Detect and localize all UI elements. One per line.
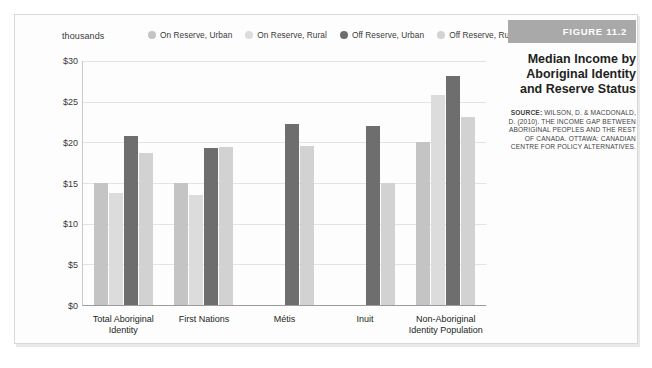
bar[interactable]: [381, 183, 395, 305]
x-axis-category-label: First Nations: [179, 314, 230, 325]
bar[interactable]: [94, 183, 108, 305]
legend-item[interactable]: On Reserve, Urban: [148, 30, 232, 40]
bar-group: Total AboriginalIdentity: [83, 61, 164, 305]
y-axis-tick-label: $5: [68, 260, 78, 270]
figure-number-band: FIGURE 11.2: [508, 20, 636, 43]
legend-label: Off Reserve, Urban: [352, 30, 424, 40]
legend-label: On Reserve, Urban: [160, 30, 232, 40]
bar-group: First Nations: [164, 61, 245, 305]
x-axis-label-line: Non-Aboriginal: [409, 314, 483, 325]
legend-swatch-icon: [245, 31, 253, 39]
bar[interactable]: [189, 195, 203, 305]
bar[interactable]: [124, 136, 138, 305]
y-axis-tick-label: $30: [63, 56, 78, 66]
chart-area: thousands On Reserve, UrbanOn Reserve, R…: [30, 20, 500, 320]
bar[interactable]: [461, 117, 475, 305]
x-axis-label-line: Identity: [93, 325, 154, 336]
bar[interactable]: [300, 146, 314, 305]
y-axis-tick-label: $25: [63, 97, 78, 107]
y-axis-tick-label: $0: [68, 301, 78, 311]
bar[interactable]: [219, 147, 233, 305]
bar[interactable]: [446, 76, 460, 305]
x-axis-label-line: Identity Population: [409, 325, 483, 336]
plot-area: $30$25$20$15$10$5$0 Total AboriginalIden…: [82, 61, 486, 306]
source-prefix: SOURCE:: [511, 109, 542, 116]
y-axis-tick-label: $15: [63, 179, 78, 189]
x-axis-label-line: Inuit: [357, 314, 374, 325]
figure-title: Median Income by Aboriginal Identity and…: [508, 52, 636, 97]
units-label: thousands: [62, 31, 104, 41]
figure-source: SOURCE: WILSON, D. & MACDONALD, D. (2010…: [508, 109, 636, 152]
x-axis-label-line: First Nations: [179, 314, 230, 325]
bar-group: Non-AboriginalIdentity Population: [405, 61, 486, 305]
y-axis-tick-label: $10: [63, 219, 78, 229]
legend-swatch-icon: [340, 31, 348, 39]
bar-groups: Total AboriginalIdentityFirst NationsMét…: [83, 61, 486, 305]
bar[interactable]: [366, 126, 380, 305]
x-axis-label-line: Total Aboriginal: [93, 314, 154, 325]
y-axis-tick-label: $20: [63, 138, 78, 148]
x-axis-category-label: Métis: [274, 314, 296, 325]
legend-swatch-icon: [437, 31, 445, 39]
legend-label: On Reserve, Rural: [257, 30, 327, 40]
bar[interactable]: [109, 193, 123, 305]
bar[interactable]: [139, 153, 153, 305]
legend-item[interactable]: On Reserve, Rural: [245, 30, 327, 40]
bar[interactable]: [174, 183, 188, 305]
legend-item[interactable]: Off Reserve, Rural: [437, 30, 518, 40]
legend-swatch-icon: [148, 31, 156, 39]
gridline: $0: [83, 305, 486, 306]
bar[interactable]: [416, 142, 430, 305]
chart-legend: On Reserve, UrbanOn Reserve, RuralOff Re…: [148, 30, 519, 40]
bar-group: Métis: [244, 61, 325, 305]
x-axis-label-line: Métis: [274, 314, 296, 325]
figure-side-panel: FIGURE 11.2 Median Income by Aboriginal …: [508, 20, 636, 152]
x-axis-category-label: Non-AboriginalIdentity Population: [409, 314, 483, 336]
legend-item[interactable]: Off Reserve, Urban: [340, 30, 424, 40]
figure-page: thousands On Reserve, UrbanOn Reserve, R…: [0, 0, 652, 368]
bar-group: Inuit: [325, 61, 406, 305]
x-axis-category-label: Total AboriginalIdentity: [93, 314, 154, 336]
bar[interactable]: [204, 148, 218, 305]
bar[interactable]: [285, 124, 299, 305]
x-axis-category-label: Inuit: [357, 314, 374, 325]
bar[interactable]: [431, 95, 445, 305]
